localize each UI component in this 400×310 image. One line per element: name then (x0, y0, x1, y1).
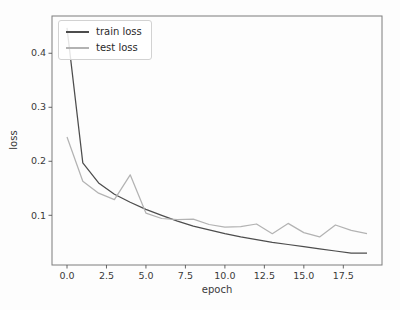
y-axis-label: loss (8, 130, 19, 149)
train-loss-line-swatch (66, 31, 89, 33)
test-loss-line (67, 137, 367, 237)
legend-label-train-loss: train loss (96, 25, 142, 38)
x-tick-label: 17.5 (333, 270, 354, 281)
y-tick-label: 0.1 (31, 210, 46, 221)
test-loss-line-swatch (66, 47, 89, 49)
x-axis-label: epoch (202, 284, 232, 295)
x-tick-label: 0.0 (59, 270, 74, 281)
legend: train loss test loss (58, 20, 152, 60)
y-tick-label: 0.2 (31, 155, 46, 166)
loss-chart-figure: 0.02.55.07.510.012.515.017.50.10.20.30.4… (0, 0, 400, 310)
y-tick-label: 0.4 (31, 47, 46, 58)
x-tick-label: 15.0 (293, 270, 314, 281)
y-tick-label: 0.3 (31, 101, 46, 112)
x-tick-label: 10.0 (214, 270, 235, 281)
x-tick-label: 7.5 (178, 270, 193, 281)
legend-item-train-loss: train loss (66, 25, 142, 38)
x-tick-label: 2.5 (99, 270, 114, 281)
x-tick-label: 5.0 (138, 270, 153, 281)
train-loss-line (67, 28, 367, 253)
x-tick-label: 12.5 (254, 270, 275, 281)
legend-item-test-loss: test loss (66, 41, 142, 54)
legend-label-test-loss: test loss (96, 41, 138, 54)
